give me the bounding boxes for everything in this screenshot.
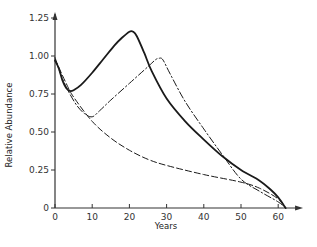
y-tick-label: 0.50 [29, 127, 49, 137]
x-axis-title: Years [154, 221, 178, 231]
y-axis-title: Relative Abundance [4, 83, 14, 168]
series-solid [55, 31, 286, 208]
y-tick-label: 0.25 [29, 165, 49, 175]
x-tick-label: 60 [272, 212, 284, 222]
x-tick-label: 40 [198, 212, 210, 222]
series-lines [55, 31, 286, 208]
series-dashed [55, 59, 286, 208]
x-axis-arrow-icon [295, 206, 303, 211]
y-axis-arrow-icon [53, 12, 58, 20]
y-tick-label: 1.25 [29, 13, 49, 23]
x-tick-label: 20 [124, 212, 136, 222]
x-tick-label: 10 [86, 212, 98, 222]
x-tick-label: 50 [235, 212, 247, 222]
y-tick-label: 0.75 [29, 89, 49, 99]
relative-abundance-chart: 00.250.500.751.001.250102030405060 Years… [0, 0, 317, 247]
series-dash-dot [55, 58, 286, 208]
x-tick-label: 0 [52, 212, 58, 222]
axes: 00.250.500.751.001.250102030405060 [29, 12, 303, 222]
y-tick-label: 1.00 [29, 51, 49, 61]
y-tick-label: 0 [43, 203, 49, 213]
